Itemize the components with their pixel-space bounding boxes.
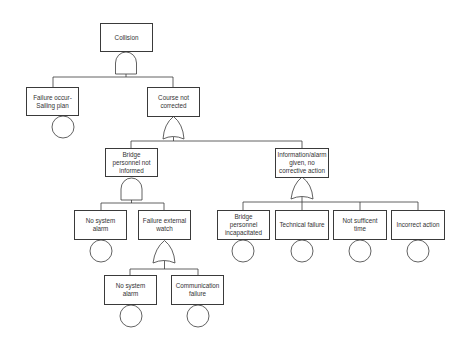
- node-label: Bridge personnel not informed: [109, 151, 154, 175]
- or-gate-icon: [153, 241, 175, 264]
- event-technical-failure: Technical failure: [275, 210, 329, 240]
- or-gate-icon: [163, 117, 184, 140]
- event-bridge-incapacitated: Bridge personnel incapacitated: [217, 210, 270, 240]
- node-label: Bridge personnel incapacitated: [221, 213, 266, 237]
- basic-event-icon: [187, 305, 209, 327]
- or-gate-icon: [291, 177, 313, 199]
- node-label: No system alarm: [108, 282, 153, 298]
- basic-event-icon: [349, 240, 371, 262]
- node-label: Failure external watch: [142, 217, 187, 233]
- node-label: Technical failure: [279, 221, 324, 229]
- node-label: Communication failure: [175, 282, 220, 298]
- basic-event-icon: [52, 116, 74, 138]
- event-collision: Collision: [100, 23, 153, 52]
- event-communication-failure: Communication failure: [171, 275, 224, 305]
- node-label: Failure occur- Sailing plan: [30, 94, 75, 110]
- fault-tree-diagram: [0, 0, 470, 338]
- basic-event-icon: [291, 240, 313, 262]
- node-label: No system alarm: [78, 217, 123, 233]
- event-info-alarm-given: Information/alarm given, no corrective a…: [275, 148, 329, 178]
- basic-event-icon: [407, 240, 429, 262]
- and-gate-icon: [116, 52, 137, 74]
- event-failure-external-watch: Failure external watch: [138, 210, 191, 240]
- basic-event-icon: [120, 305, 142, 327]
- basic-event-icon: [232, 240, 254, 262]
- node-label: Not sufficent time: [337, 217, 383, 233]
- event-course-not-corrected: Course not corrected: [147, 87, 200, 117]
- event-bridge-not-informed: Bridge personnel not informed: [105, 148, 158, 177]
- event-not-sufficient-time: Not sufficent time: [333, 210, 387, 240]
- event-incorrect-action: Incorrect action: [391, 210, 445, 240]
- event-no-system-alarm-1: No system alarm: [74, 210, 127, 240]
- node-label: Information/alarm given, no corrective a…: [278, 151, 327, 175]
- and-gate-icon: [121, 178, 142, 200]
- node-label: Course not corrected: [151, 94, 196, 110]
- node-label: Incorrect action: [396, 221, 439, 229]
- basic-event-icon: [90, 240, 112, 262]
- event-no-system-alarm-2: No system alarm: [104, 275, 157, 305]
- node-label: Collision: [115, 34, 139, 42]
- event-failure-sailing-plan: Failure occur- Sailing plan: [26, 87, 79, 116]
